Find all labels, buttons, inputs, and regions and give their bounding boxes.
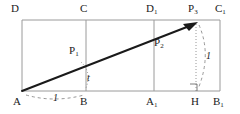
vertex-label-b: B xyxy=(80,96,87,107)
interior-dividers xyxy=(86,20,154,91)
vector-shaft xyxy=(22,25,192,91)
measure-label-angle-param: t xyxy=(87,73,90,83)
measure-label-base-length: 1 xyxy=(53,93,58,103)
vertex-label-d: D xyxy=(11,3,19,14)
geometry-figure: D C D1 C1 A B A1 H B1 P1 P2 P3 1 t 1 xyxy=(0,0,240,114)
vertex-label-d1: D1 xyxy=(146,3,157,14)
point-label-p1: P1 xyxy=(69,45,79,56)
measure-label-height-length: 1 xyxy=(206,51,211,61)
vertex-label-h: H xyxy=(191,96,199,107)
point-label-p2: P2 xyxy=(154,37,164,48)
point-label-p3: P3 xyxy=(188,3,198,14)
vertex-label-a1: A1 xyxy=(146,96,157,107)
vertex-label-c: C xyxy=(80,3,87,14)
measure-arc-p3h xyxy=(198,25,205,89)
diagonal-vector-a-to-p3 xyxy=(22,22,198,91)
vertex-label-c1: C1 xyxy=(215,3,226,14)
vertex-label-b1: B1 xyxy=(213,96,224,107)
vector-arrowhead-icon xyxy=(183,22,198,31)
vertex-label-a: A xyxy=(13,96,21,107)
figure-canvas xyxy=(0,0,240,114)
